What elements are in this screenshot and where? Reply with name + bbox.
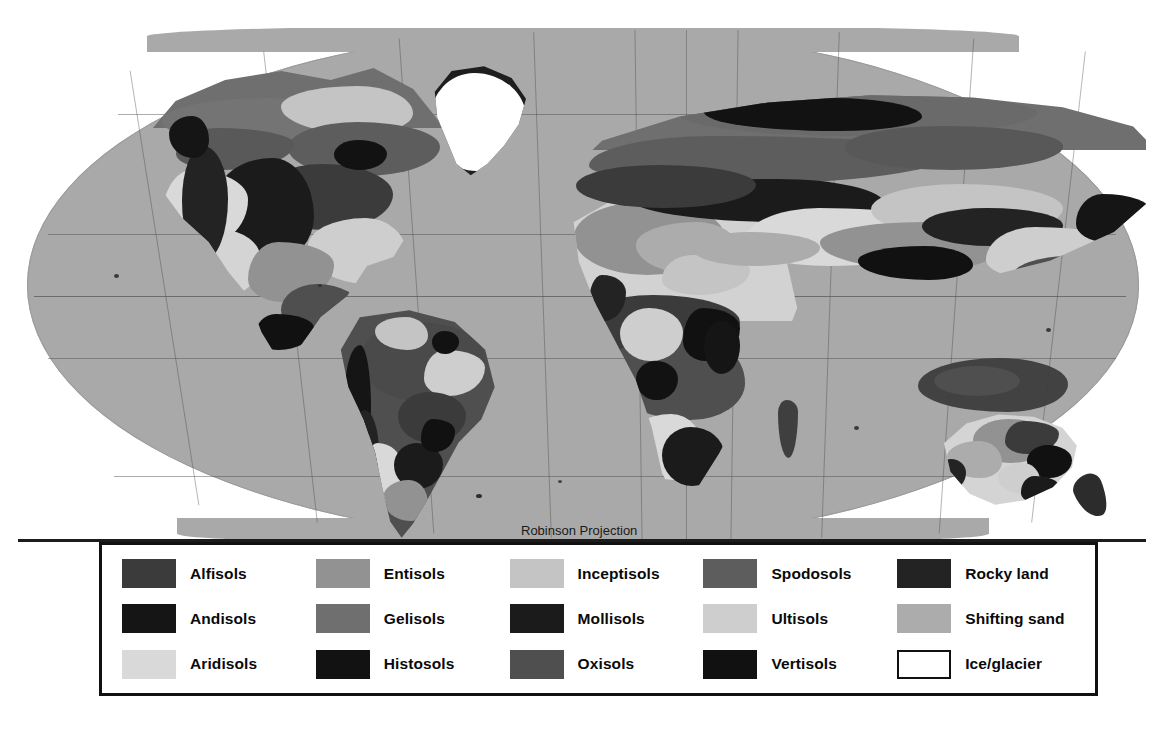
legend-item[interactable]: Shifting sand bbox=[891, 604, 1085, 633]
soil-shifting-sand-eurasia bbox=[692, 232, 820, 266]
island-speck bbox=[1046, 328, 1051, 332]
legend-item[interactable]: Mollisols bbox=[504, 604, 698, 633]
legend-item[interactable]: Ice/glacier bbox=[891, 650, 1085, 679]
legend-label: Rocky land bbox=[965, 565, 1049, 583]
map-canvas: Robinson Projection Scale 1:130,000,000 bbox=[18, 28, 1146, 542]
legend-swatch bbox=[897, 604, 951, 633]
legend-item[interactable]: Inceptisols bbox=[504, 559, 698, 588]
legend-swatch bbox=[316, 604, 370, 633]
legend-swatch bbox=[510, 559, 564, 588]
legend-swatch bbox=[122, 650, 176, 679]
soil-vertisols-eurasia bbox=[858, 246, 973, 280]
legend-item[interactable]: Rocky land bbox=[891, 559, 1085, 588]
island-speck bbox=[476, 494, 482, 498]
legend-swatch bbox=[703, 650, 757, 679]
legend-label: Shifting sand bbox=[965, 610, 1064, 628]
legend-label: Ice/glacier bbox=[965, 655, 1042, 673]
legend-label: Aridisols bbox=[190, 655, 257, 673]
legend-label: Inceptisols bbox=[578, 565, 660, 583]
legend-swatch bbox=[316, 650, 370, 679]
island-speck bbox=[558, 480, 562, 483]
legend-swatch bbox=[316, 559, 370, 588]
legend-item[interactable]: Andisols bbox=[116, 604, 310, 633]
soil-oxisols-southeast-asia bbox=[934, 366, 1020, 396]
legend-swatch bbox=[122, 604, 176, 633]
legend-item[interactable]: Entisols bbox=[310, 559, 504, 588]
map-legend: AlfisolsEntisolsInceptisolsSpodosolsRock… bbox=[99, 542, 1098, 696]
legend-swatch bbox=[897, 650, 951, 679]
graticule-parallel-capricorn bbox=[48, 358, 1116, 359]
legend-swatch bbox=[703, 604, 757, 633]
legend-label: Histosols bbox=[384, 655, 455, 673]
island-speck bbox=[114, 274, 119, 278]
landmass-new-zealand bbox=[1069, 470, 1113, 522]
legend-label: Mollisols bbox=[578, 610, 645, 628]
soil-mollisols-australia bbox=[1021, 476, 1059, 502]
soil-spodosols-eurasia-2 bbox=[845, 126, 1063, 169]
legend-label: Oxisols bbox=[578, 655, 635, 673]
island-speck bbox=[854, 426, 859, 430]
legend-grid: AlfisolsEntisolsInceptisolsSpodosolsRock… bbox=[102, 545, 1095, 693]
legend-label: Andisols bbox=[190, 610, 256, 628]
legend-item[interactable]: Histosols bbox=[310, 650, 504, 679]
legend-item[interactable]: Spodosols bbox=[697, 559, 891, 588]
legend-label: Ultisols bbox=[771, 610, 828, 628]
legend-item[interactable]: Oxisols bbox=[504, 650, 698, 679]
legend-label: Vertisols bbox=[771, 655, 837, 673]
legend-swatch bbox=[703, 559, 757, 588]
legend-swatch bbox=[897, 559, 951, 588]
legend-item[interactable]: Ultisols bbox=[697, 604, 891, 633]
projection-label: Robinson Projection bbox=[521, 523, 721, 539]
legend-item[interactable]: Gelisols bbox=[310, 604, 504, 633]
soil-andisols-na bbox=[169, 116, 209, 158]
legend-swatch bbox=[510, 604, 564, 633]
legend-label: Spodosols bbox=[771, 565, 851, 583]
graticule-parallel-equator bbox=[34, 296, 1126, 297]
legend-swatch bbox=[510, 650, 564, 679]
legend-swatch bbox=[122, 559, 176, 588]
legend-item[interactable]: Alfisols bbox=[116, 559, 310, 588]
legend-item[interactable]: Aridisols bbox=[116, 650, 310, 679]
legend-item[interactable]: Vertisols bbox=[697, 650, 891, 679]
legend-label: Alfisols bbox=[190, 565, 247, 583]
soil-ultisols-africa bbox=[620, 308, 682, 361]
island-speck bbox=[318, 284, 322, 287]
graticule-parallel-antarctic bbox=[114, 476, 1052, 477]
legend-label: Gelisols bbox=[384, 610, 445, 628]
legend-label: Entisols bbox=[384, 565, 445, 583]
